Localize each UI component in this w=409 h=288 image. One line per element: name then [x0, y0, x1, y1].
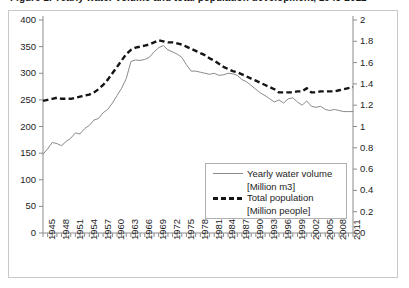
x-axis-label: 1993 — [269, 219, 279, 240]
y-axis-left-label: 400 — [9, 15, 36, 25]
y-axis-left-label: 0 — [9, 228, 36, 238]
x-axis-label: 1948 — [61, 219, 71, 240]
x-axis-label: 2011 — [352, 220, 362, 240]
chart-frame: 05010015020025030035040000.20.40.60.811.… — [8, 10, 398, 278]
x-axis-label: 1969 — [158, 219, 168, 240]
y-axis-left-label: 100 — [9, 175, 36, 185]
figure-caption-strip: Figure 1. Yearly water volume and total … — [0, 0, 409, 9]
y-axis-left-label: 350 — [9, 42, 36, 52]
legend-label-population: Total population — [247, 193, 314, 203]
x-axis-label: 1951 — [75, 219, 85, 240]
x-axis-label: 1999 — [297, 219, 307, 240]
x-axis-label: 1981 — [214, 219, 224, 240]
series-total-population-line — [43, 40, 353, 101]
legend-swatch-solid — [213, 173, 243, 174]
x-axis-label: 1990 — [255, 219, 265, 240]
y-axis-left-label: 300 — [9, 68, 36, 78]
y-axis-left-label: 250 — [9, 95, 36, 105]
y-axis-right-label: 1.8 — [360, 36, 373, 46]
x-axis-label: 1996 — [283, 219, 293, 240]
x-axis-label: 1972 — [172, 219, 182, 240]
x-axis-label: 1978 — [200, 219, 210, 240]
x-axis-label: 1987 — [241, 219, 251, 240]
y-axis-right-label: 0.4 — [360, 185, 373, 195]
y-axis-right-label: 2 — [360, 15, 365, 25]
series-yearly-water-volume-line — [43, 46, 353, 155]
x-axis-label: 1966 — [144, 219, 154, 240]
x-axis-label: 2008 — [338, 219, 348, 240]
x-axis-label: 1975 — [186, 219, 196, 240]
legend-swatch-dashed — [213, 197, 243, 200]
legend-unit-population: [Million people] — [247, 206, 310, 216]
y-axis-right-label: 1 — [360, 122, 365, 132]
x-axis-label: 1957 — [103, 219, 113, 240]
y-axis-left-label: 150 — [9, 148, 36, 158]
y-axis-left-label: 200 — [9, 122, 36, 132]
x-axis-label: 1960 — [116, 219, 126, 240]
chart-legend: Yearly water volume[Million m3]Total pop… — [205, 163, 347, 219]
legend-unit-water-volume: [Million m3] — [247, 182, 295, 192]
y-axis-right-label: 1.4 — [360, 79, 373, 89]
y-axis-right-label: 0.2 — [360, 207, 373, 217]
y-axis-right-label: 0.6 — [360, 164, 373, 174]
y-axis-right-label: 0.8 — [360, 143, 373, 153]
x-axis-label: 1963 — [130, 219, 140, 240]
x-axis-label: 1945 — [47, 219, 57, 240]
y-axis-right-label: 1.2 — [360, 100, 373, 110]
x-axis-label: 2005 — [325, 219, 335, 240]
x-axis-label: 2002 — [311, 219, 321, 240]
legend-label-water-volume: Yearly water volume — [247, 169, 332, 179]
y-axis-right-label: 1.6 — [360, 58, 373, 68]
x-axis-label: 1984 — [227, 219, 237, 240]
figure-caption: Figure 1. Yearly water volume and total … — [10, 0, 367, 3]
y-axis-left-label: 50 — [9, 201, 36, 211]
chart-page: Figure 1. Yearly water volume and total … — [0, 0, 409, 288]
x-axis-label: 1954 — [89, 219, 99, 240]
